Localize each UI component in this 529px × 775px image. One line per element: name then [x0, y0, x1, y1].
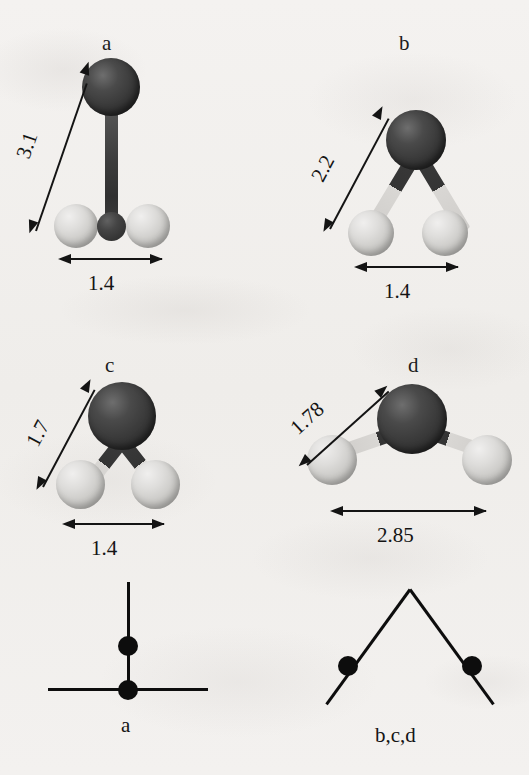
atom-b-light-left [348, 210, 394, 256]
atom-d-light-right [462, 435, 512, 485]
dimension-b-horizontal-arrow-left [354, 262, 367, 272]
dimension-b-horizontal-label: 1.4 [384, 281, 410, 302]
dimension-a-horizontal-label: 1.4 [88, 273, 114, 294]
panel-c-label: c [105, 355, 114, 376]
dimension-d-vertical-label: 1.78 [287, 398, 328, 438]
schematic-bcd-label: b,c,d [375, 725, 416, 746]
atom-b-light-right [422, 210, 468, 256]
dimension-a-horizontal-arrow-left [58, 254, 71, 264]
schematic-bcd: b,c,d [265, 570, 529, 775]
atom-b-dark-center [386, 110, 446, 170]
dimension-b-horizontal-line [358, 266, 458, 268]
dimension-d-horizontal-arrow-left [330, 506, 343, 516]
atom-a-light-right [126, 204, 170, 248]
atom-c-light-left [56, 460, 105, 509]
dimension-a-horizontal-line [62, 258, 162, 260]
dimension-b-horizontal-arrow-right [446, 262, 459, 272]
panel-a-label: a [102, 33, 111, 54]
atom-a-dark-center [97, 212, 126, 241]
panel-c: c 1.7 1.4 [0, 320, 265, 570]
dimension-c-horizontal-arrow-left [62, 519, 75, 529]
molecular-structure-figure: a 3.1 1.4 b [0, 0, 529, 775]
dimension-c-horizontal-arrow-right [152, 519, 165, 529]
schematic-bcd-right-line [409, 589, 495, 706]
schematic-bcd-dot-right [462, 656, 482, 676]
dimension-c-horizontal-label: 1.4 [91, 538, 117, 559]
bond-a-vertical [105, 108, 118, 226]
panel-a: a 3.1 1.4 [0, 0, 265, 320]
dimension-a-vertical-arrow-bottom [25, 219, 39, 235]
dimension-d-horizontal-arrow-right [474, 506, 487, 516]
panel-b-label: b [399, 33, 410, 54]
atom-c-dark-center [88, 382, 156, 450]
dimension-d-horizontal-line [334, 510, 486, 512]
dimension-c-horizontal-line [66, 523, 164, 525]
dimension-c-vertical-arrow-bottom [32, 476, 47, 492]
schematic-a-dot-upper [118, 636, 138, 656]
schematic-bcd-dot-left [338, 656, 358, 676]
panel-d: d 1.78 2.85 [265, 320, 529, 570]
dimension-a-vertical-label: 3.1 [13, 130, 41, 162]
dimension-b-vertical-arrow-top [372, 104, 387, 120]
schematic-a: a [0, 570, 265, 775]
atom-c-light-right [131, 460, 180, 509]
atom-d-dark-center [377, 384, 447, 454]
dimension-c-vertical-label: 1.7 [23, 417, 54, 450]
schematic-a-dot-lower [118, 680, 138, 700]
schematic-a-label: a [121, 715, 130, 736]
schematic-bcd-left-line [325, 589, 411, 706]
panel-b: b 2.2 1.4 [265, 0, 529, 320]
dimension-d-horizontal-label: 2.85 [377, 525, 414, 546]
panel-d-label: d [408, 355, 419, 376]
dimension-b-vertical-label: 2.2 [308, 152, 339, 185]
dimension-b-vertical-arrow-bottom [319, 218, 334, 234]
atom-a-light-left [54, 204, 98, 248]
dimension-a-horizontal-arrow-right [150, 254, 163, 264]
